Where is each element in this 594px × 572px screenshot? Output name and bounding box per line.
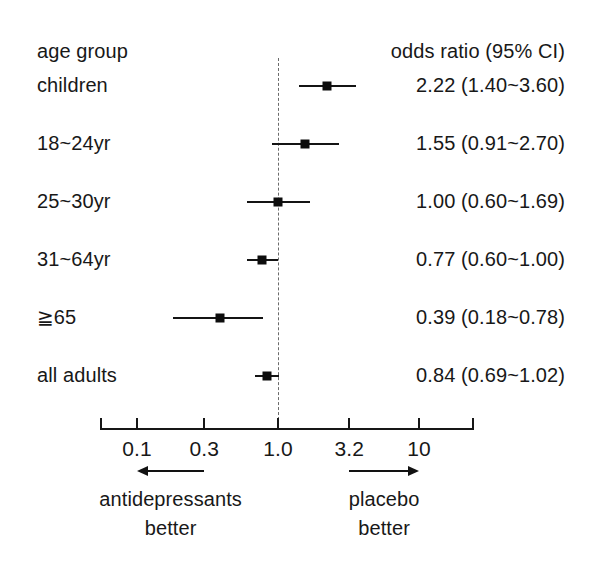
- arrow-right-icon: [408, 466, 419, 476]
- row-value-odds-ratio-ci: 0.39 (0.18~0.78): [416, 307, 565, 327]
- point-estimate-marker: [216, 314, 225, 323]
- row-value-odds-ratio-ci: 1.00 (0.60~1.69): [416, 191, 565, 211]
- row-label: all adults: [37, 365, 117, 385]
- direction-caption-line2: better: [145, 518, 197, 538]
- point-estimate-marker: [274, 198, 283, 207]
- row-label: 18~24yr: [37, 133, 111, 153]
- row-label: ≧65: [37, 307, 76, 327]
- axis-end-right: [472, 418, 474, 430]
- point-estimate-marker: [263, 372, 272, 381]
- row-value-odds-ratio-ci: 0.84 (0.69~1.02): [416, 365, 565, 385]
- x-axis-tick: [203, 418, 205, 429]
- direction-caption-line2: better: [358, 518, 410, 538]
- point-estimate-marker: [322, 82, 331, 91]
- x-axis-tick: [418, 418, 420, 429]
- direction-arrow-shaft: [349, 470, 410, 472]
- row-value-odds-ratio-ci: 1.55 (0.91~2.70): [416, 133, 565, 153]
- forest-plot-figure: age group odds ratio (95% CI) children2.…: [0, 0, 594, 572]
- x-axis-tick-label: 3.2: [334, 438, 364, 459]
- row-label: children: [37, 75, 108, 95]
- row-label: 31~64yr: [37, 249, 111, 269]
- direction-arrow-shaft: [146, 470, 204, 472]
- direction-caption-line1: antidepressants: [99, 489, 242, 509]
- point-estimate-marker: [257, 256, 266, 265]
- x-axis-tick: [348, 418, 350, 429]
- axis-end-left: [100, 418, 102, 430]
- x-axis-tick-label: 0.1: [122, 438, 152, 459]
- x-axis-tick-label: 0.3: [190, 438, 220, 459]
- column-header-age-group: age group: [37, 41, 128, 61]
- x-axis-tick: [277, 418, 279, 429]
- column-header-odds-ratio: odds ratio (95% CI): [391, 41, 565, 61]
- x-axis-tick-label: 10: [407, 438, 431, 459]
- direction-caption-line1: placebo: [349, 489, 420, 509]
- point-estimate-marker: [300, 140, 309, 149]
- row-value-odds-ratio-ci: 0.77 (0.60~1.00): [416, 249, 565, 269]
- row-value-odds-ratio-ci: 2.22 (1.40~3.60): [416, 75, 565, 95]
- x-axis-tick: [136, 418, 138, 429]
- x-axis-tick-label: 1.0: [263, 438, 293, 459]
- row-label: 25~30yr: [37, 191, 111, 211]
- arrow-left-icon: [137, 466, 148, 476]
